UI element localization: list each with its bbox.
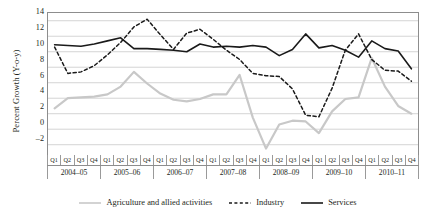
x-tick-year: 2006–07 <box>153 166 206 179</box>
x-tick-quarter: Q1 <box>259 155 272 165</box>
x-tick-quarter: Q4 <box>193 155 206 165</box>
x-tick-quarter: Q3 <box>180 155 193 165</box>
y-tick-label: 8 <box>8 56 44 64</box>
legend-label: Agriculture and allied activities <box>106 198 212 207</box>
x-tick-quarter: Q4 <box>405 155 419 165</box>
series-line <box>55 58 412 149</box>
legend-swatch-solid <box>79 199 101 207</box>
series-line <box>55 19 412 117</box>
y-tick-label: 12 <box>8 24 44 32</box>
x-tick-quarter: Q4 <box>246 155 259 165</box>
chart-container: Percent Growth (Y-o-y) 14 12 10 8 6 4 2 … <box>0 0 436 223</box>
legend-item: Agriculture and allied activities <box>79 198 212 207</box>
x-tick-quarter: Q3 <box>233 155 246 165</box>
x-tick-quarter: Q2 <box>60 155 73 165</box>
x-tick-year: 2008–09 <box>259 166 312 179</box>
legend-item: Services <box>301 198 356 207</box>
x-tick-year: 2005–06 <box>100 166 153 179</box>
x-tick-quarter: Q1 <box>206 155 219 165</box>
x-tick-quarter: Q2 <box>325 155 338 165</box>
chart-legend: Agriculture and allied activitiesIndustr… <box>0 198 436 207</box>
legend-label: Industry <box>256 198 284 207</box>
x-tick-quarter: Q4 <box>352 155 365 165</box>
x-tick-quarter: Q2 <box>166 155 179 165</box>
x-tick-quarter: Q4 <box>299 155 312 165</box>
legend-swatch-solid <box>301 199 323 207</box>
x-tick-quarter: Q1 <box>100 155 113 165</box>
x-tick-quarter: Q1 <box>153 155 166 165</box>
y-tick-label: 4 <box>8 87 44 95</box>
x-tick-year: 2004–05 <box>47 166 100 179</box>
plot-svg <box>48 13 418 154</box>
legend-item: Industry <box>229 198 284 207</box>
x-tick-quarter: Q4 <box>140 155 153 165</box>
x-tick-quarter: Q2 <box>378 155 391 165</box>
x-tick-quarter: Q2 <box>272 155 285 165</box>
plot-area <box>47 12 419 155</box>
x-tick-quarter: Q4 <box>87 155 100 165</box>
y-tick-label: 0 <box>8 119 44 127</box>
x-tick-quarter: Q3 <box>74 155 87 165</box>
legend-label: Services <box>328 198 356 207</box>
y-tick-label: –2 <box>8 135 44 143</box>
x-tick-year: 2009–10 <box>312 166 365 179</box>
x-tick-quarter: Q3 <box>127 155 140 165</box>
x-tick-quarter: Q2 <box>113 155 126 165</box>
y-tick-label: 14 <box>8 8 44 16</box>
y-axis-tick-labels: 14 12 10 8 6 4 2 0 –2 <box>0 12 44 155</box>
x-tick-quarter: Q3 <box>339 155 352 165</box>
y-tick-label: 10 <box>8 40 44 48</box>
x-tick-quarter: Q1 <box>312 155 325 165</box>
x-axis-year-row: 2004–052005–062006–072007–082008–092009–… <box>47 166 419 179</box>
x-tick-quarter: Q1 <box>47 155 60 165</box>
y-tick-label: 6 <box>8 72 44 80</box>
x-axis: Q1Q2Q3Q4Q1Q2Q3Q4Q1Q2Q3Q4Q1Q2Q3Q4Q1Q2Q3Q4… <box>47 155 419 179</box>
y-tick-label: 2 <box>8 103 44 111</box>
x-tick-quarter: Q1 <box>365 155 378 165</box>
x-tick-quarter: Q3 <box>286 155 299 165</box>
x-axis-quarter-row: Q1Q2Q3Q4Q1Q2Q3Q4Q1Q2Q3Q4Q1Q2Q3Q4Q1Q2Q3Q4… <box>47 155 419 166</box>
x-tick-quarter: Q2 <box>219 155 232 165</box>
x-tick-year: 2010–11 <box>365 166 419 179</box>
x-tick-quarter: Q3 <box>392 155 405 165</box>
x-tick-year: 2007–08 <box>206 166 259 179</box>
legend-swatch-dashed <box>229 199 251 207</box>
